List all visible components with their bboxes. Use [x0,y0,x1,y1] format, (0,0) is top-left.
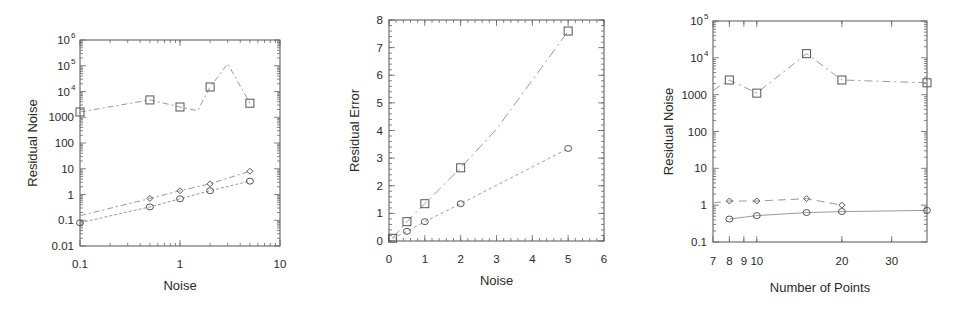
y-tick-label: 1 [377,207,383,219]
series-line [80,181,250,223]
x-tick-label: 5 [565,253,571,265]
y-tick-label: 10 [690,15,703,27]
y-tick-exponent: 5 [71,57,76,66]
y-tick-label: 10 [690,52,703,64]
y-tick-label: 0.1 [691,236,707,248]
y-tick-label: 5 [377,97,383,109]
y-tick-exponent: 4 [71,83,76,92]
y-tick-label: 0.01 [52,240,74,252]
circle-marker [403,228,410,234]
x-tick-label: 3 [493,253,499,265]
series-line [80,64,250,112]
y-axis-ticks: 0.010.11101001000104105106 [48,31,280,252]
x-tick-label: 20 [835,255,848,267]
y-tick-label: 100 [688,126,707,138]
y-tick-label: 6 [377,69,383,81]
x-tick-label: 0 [386,253,392,265]
series-circles [393,145,572,238]
series-diamonds [713,196,845,208]
y-tick-label: 1 [68,189,74,201]
y-axis-ticks: 012345678 [377,14,604,247]
square-marker [246,99,254,107]
chart-right: 0.11101001000104105789102030Number of Po… [661,12,931,295]
series-line [393,149,569,239]
y-tick-label: 10 [57,34,70,46]
x-tick-label: 6 [601,253,607,265]
chart-left: 0.010.111010010001041051060.1110NoiseRes… [25,31,286,293]
x-tick-label: 1 [422,253,428,265]
y-tick-exponent: 4 [704,49,709,58]
y-axis-label: Residual Noise [661,88,676,175]
y-tick-label: 10 [57,60,70,72]
x-axis-label: Noise [163,278,196,293]
diamond-marker [839,202,845,208]
x-tick-label: 30 [885,255,898,267]
series-squares [713,50,931,98]
chart-middle: 0123456780123456NoiseResidual Error [347,14,607,288]
x-tick-label: 9 [741,255,747,267]
minor-ticks [80,40,280,246]
series-circles [726,207,931,222]
series-circles [77,178,254,226]
x-tick-label: 7 [710,255,716,267]
y-tick-label: 10 [694,162,707,174]
series-line [713,54,927,94]
y-tick-label: 1000 [681,89,707,101]
y-tick-label: 3 [377,152,383,164]
series-line [80,171,250,216]
plot-frame [713,21,927,242]
x-axis-label: Number of Points [770,280,871,295]
x-tick-label: 10 [750,255,763,267]
circle-marker [207,188,214,194]
diamond-marker [247,168,253,174]
y-tick-label: 2 [377,180,383,192]
figure: 0.010.111010010001041051060.1110NoiseRes… [0,0,955,311]
minor-ticks [713,21,927,242]
y-tick-label: 0 [377,235,383,247]
x-tick-label: 0.1 [72,258,88,270]
y-tick-label: 10 [57,86,70,98]
square-marker [206,83,214,91]
chart-canvas: 0.010.111010010001041051060.1110NoiseRes… [0,0,955,311]
circle-marker [565,145,572,151]
x-tick-label: 10 [274,258,287,270]
y-tick-label: 1000 [48,111,74,123]
y-axis-label: Residual Error [347,88,362,172]
y-tick-label: 8 [377,14,383,26]
x-tick-label: 4 [529,253,536,265]
x-axis-ticks: 0123456 [386,20,607,265]
square-marker [564,27,572,35]
y-tick-exponent: 6 [71,31,76,40]
series-squares [389,27,573,242]
y-axis-label: Residual Noise [25,99,40,186]
y-tick-label: 1 [701,199,707,211]
y-tick-label: 10 [61,163,74,175]
x-axis-ticks: 0.1110 [72,40,286,270]
y-tick-label: 0.1 [58,214,74,226]
x-axis-label: Noise [480,273,513,288]
circle-marker [246,178,253,184]
series-line [393,31,569,238]
y-tick-label: 7 [377,42,383,54]
series-line [713,199,842,206]
x-tick-label: 2 [457,253,463,265]
y-tick-label: 100 [55,137,74,149]
y-tick-label: 4 [377,125,384,137]
y-tick-exponent: 5 [704,12,709,21]
circle-marker [457,201,464,207]
series-diamonds [80,168,253,215]
plot-frame [80,40,280,246]
x-tick-label: 8 [726,255,732,267]
series-squares [76,64,254,116]
x-tick-label: 1 [177,258,183,270]
